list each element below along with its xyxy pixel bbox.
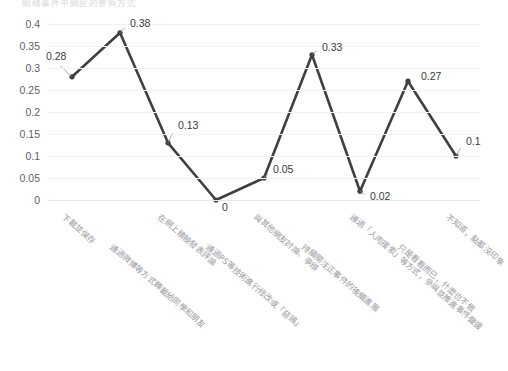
y-tick-label: 0.4: [0, 18, 40, 30]
gridline: [48, 112, 480, 113]
data-point-label: 0.1: [466, 135, 481, 147]
x-tick-label: 與其他網友討論、爭辯: [252, 210, 322, 273]
gridline: [48, 134, 480, 135]
gridline: [48, 90, 480, 91]
data-point-label: 0.05: [273, 163, 293, 175]
data-point-label: 0.38: [130, 17, 150, 29]
y-tick-label: 0.05: [0, 172, 40, 184]
x-tick-label: 通過微博等方式轉載給同學和朋友: [108, 240, 209, 330]
x-axis-line: [48, 200, 480, 201]
data-point-marker: [357, 189, 362, 194]
x-tick-label: 不知道，點都沒印象: [444, 210, 508, 267]
y-tick-label: 0.2: [0, 106, 40, 118]
chart-title: 網絡事件中網民的參與方式: [22, 0, 136, 8]
x-tick-label: 在網上積極發表評論: [156, 210, 220, 267]
data-point-label: 0.02: [370, 190, 390, 202]
gridline: [48, 156, 480, 157]
y-tick-label: 0.35: [0, 40, 40, 52]
y-tick-label: 0.1: [0, 150, 40, 162]
gridline: [48, 68, 480, 69]
data-point-label: 0.33: [322, 41, 342, 53]
gridline: [48, 46, 480, 47]
y-tick-label: 0.25: [0, 84, 40, 96]
data-point-marker: [405, 79, 410, 84]
plot-area: [48, 24, 480, 200]
series-polyline: [72, 33, 456, 200]
x-tick-label: 下載並保存: [60, 210, 99, 246]
y-tick-label: 0: [0, 194, 40, 206]
y-tick-label: 0.15: [0, 128, 40, 140]
data-point-label: 0.27: [421, 70, 441, 82]
y-tick-label: 0.3: [0, 62, 40, 74]
gridline: [48, 24, 480, 25]
data-point-label: 0.13: [178, 119, 198, 131]
gridline: [48, 178, 480, 179]
data-point-label: 0: [222, 201, 228, 213]
x-tick-label: 只是看看而已，什麼也不做: [396, 240, 478, 314]
data-point-label: 0.28: [46, 50, 66, 62]
x-tick-label: 持續關注正事件的後續進展: [300, 240, 382, 314]
